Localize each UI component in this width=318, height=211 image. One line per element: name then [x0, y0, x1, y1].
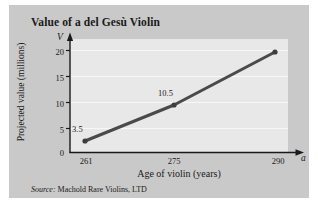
- gridline: [70, 102, 288, 103]
- x-tick-label: 290: [262, 156, 294, 166]
- y-tick-label: 10: [48, 99, 64, 109]
- y-tick-label: 5: [48, 125, 64, 135]
- x-tick-label: 261: [70, 156, 102, 166]
- x-tick-label: 275: [158, 156, 190, 166]
- x-axis-symbol: a: [301, 153, 306, 163]
- x-axis-label: Age of violin (years): [70, 168, 288, 179]
- source-label: Source:: [31, 185, 56, 194]
- y-axis-symbol: V: [57, 32, 63, 42]
- y-axis-label: Projected value (millions): [16, 27, 26, 157]
- chart-title: Value of a del Gesù Violin: [31, 16, 160, 28]
- gridline: [70, 50, 288, 51]
- y-tick-label: 15: [48, 73, 64, 83]
- y-tick-label: 0: [48, 148, 64, 158]
- source-text: Machold Rare Violins, LTD: [58, 185, 147, 194]
- gridline: [70, 128, 288, 129]
- chart-figure: Value of a del Gesù Violin Source: Macho…: [0, 0, 318, 211]
- data-point-label: 3.5: [72, 124, 83, 134]
- gridline: [70, 76, 288, 77]
- plot-area: [70, 39, 288, 152]
- y-tick-label: 20: [48, 47, 64, 57]
- data-point-label: 10.5: [158, 88, 173, 98]
- chart-source: Source: Machold Rare Violins, LTD: [31, 185, 147, 194]
